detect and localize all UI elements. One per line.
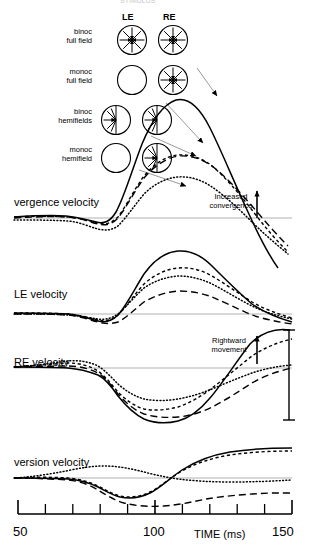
panel-le-velocity bbox=[14, 251, 292, 324]
panel-re-velocity bbox=[14, 330, 295, 423]
curve-monoc-full-field bbox=[14, 366, 292, 417]
legend-icon-row-monoc-full-field bbox=[118, 66, 188, 95]
starburst-full-icon bbox=[118, 26, 147, 55]
starburst-hemifield-icon bbox=[143, 144, 172, 173]
curve-binoc-hemifields bbox=[14, 155, 288, 252]
leader-line-monoc-hemifield bbox=[139, 170, 186, 186]
curve-binoc-full-field bbox=[14, 330, 290, 423]
legend-icons-group bbox=[102, 26, 188, 173]
time-axis bbox=[18, 500, 292, 514]
leader-line-binoc-full-field bbox=[197, 68, 217, 96]
leader-line-binoc-hemifields bbox=[151, 136, 196, 156]
panel-version-velocity bbox=[14, 448, 292, 506]
panel-vergence-velocity bbox=[14, 100, 292, 268]
curve-binoc-full-field bbox=[14, 448, 292, 498]
curve-monoc-hemifield bbox=[14, 361, 292, 401]
curve-binoc-hemifields bbox=[14, 339, 292, 410]
curve-monoc-full-field bbox=[14, 291, 292, 324]
curve-binoc-hemifields bbox=[14, 268, 292, 321]
starburst-hemifield-icon bbox=[143, 106, 172, 135]
legend-icon-row-binoc-full-field bbox=[118, 26, 188, 55]
starburst-hemifield-icon bbox=[102, 106, 131, 135]
starburst-full-icon bbox=[159, 26, 188, 55]
circle-empty-icon bbox=[118, 66, 147, 95]
curve-binoc-hemifields bbox=[14, 451, 292, 497]
plot-svg bbox=[0, 0, 315, 560]
scale-bar-re-velocity bbox=[283, 330, 295, 420]
figure-canvas: STIMULUS LE RE binoc full field monoc fu… bbox=[0, 0, 315, 560]
starburst-full-icon bbox=[159, 66, 188, 95]
curve-binoc-full-field bbox=[14, 251, 292, 322]
circle-empty-icon bbox=[102, 144, 131, 173]
curve-binoc-full-field bbox=[14, 100, 278, 268]
curve-monoc-hemifield bbox=[14, 466, 292, 482]
